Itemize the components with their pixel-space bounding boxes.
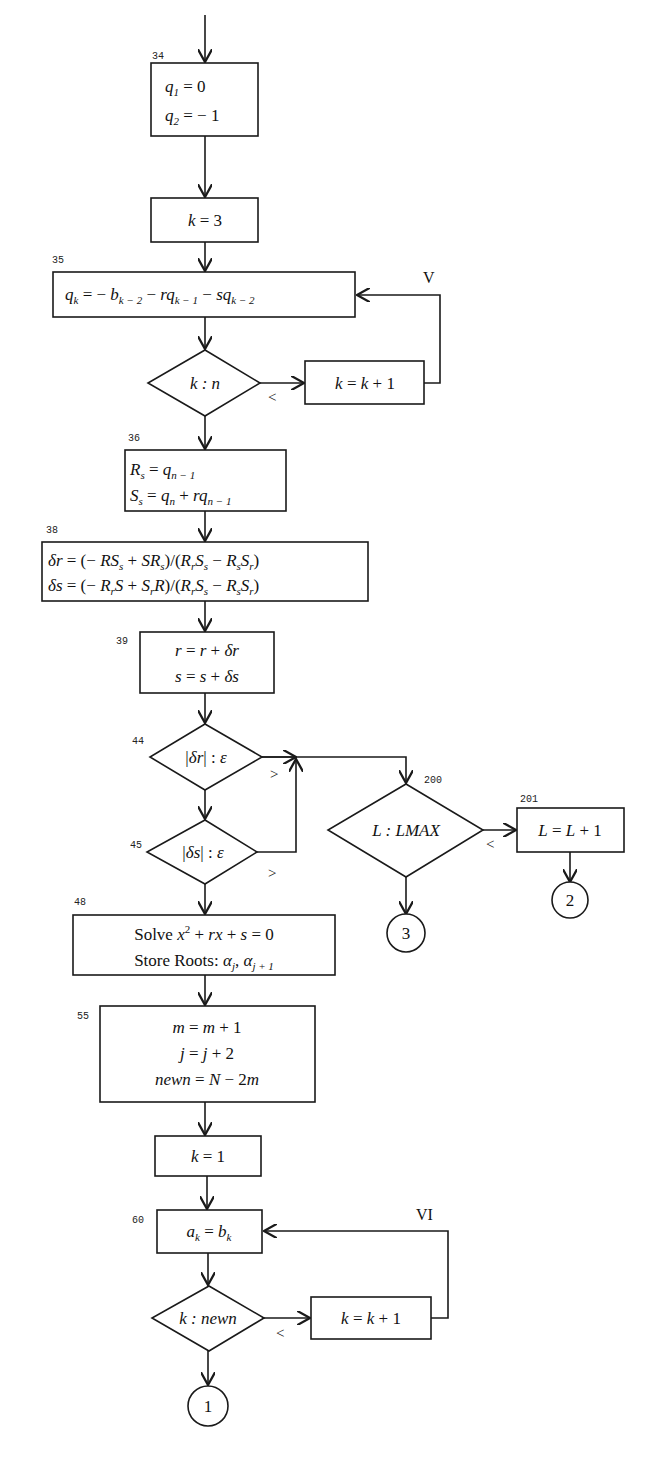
connector-2-label: 2 [566,891,575,910]
increment-k-2-text: k = k + 1 [341,1309,401,1328]
branch-label-gt-45: > [268,865,276,881]
box38-line1: δr = (− RSs + SRs)/(RrSs − RsSr) [48,551,259,572]
decision-45-text: |δs| : ε [182,843,224,862]
decision-k-n-text: k : n [190,374,220,393]
step-number-38: 38 [46,525,58,536]
loop-label-V: V [423,269,435,286]
step-number-200: 200 [424,775,442,786]
step-number-44: 44 [132,736,144,747]
process-box-34 [151,63,258,136]
loop-label-VI: VI [416,1206,433,1223]
step-number-45: 45 [130,840,142,851]
box55-line2: j = j + 2 [178,1044,234,1063]
box-k3-text: k = 3 [188,211,222,230]
box201-text: L = L + 1 [537,821,602,840]
step-number-39: 39 [116,636,128,647]
connector-3-label: 3 [402,924,411,943]
connector-1-label: 1 [204,1397,213,1416]
decision-44-text: |δr| : ε [185,748,227,767]
step-number-201: 201 [520,794,538,805]
step-number-34: 34 [152,51,164,62]
box55-line1: m = m + 1 [172,1018,241,1037]
box55-line3: newn = N − 2m [155,1070,259,1089]
step-number-55: 55 [77,1011,89,1022]
box34-line1: q1 = 0 [165,77,206,98]
box35-text: qk = − bk − 2 − rqk − 1 − sqk − 2 [65,285,255,306]
branch-label-lt: < [268,389,276,405]
step-number-35: 35 [52,255,64,266]
arrow-to-200 [262,757,406,783]
flowchart: 34 q1 = 0 q2 = − 1 k = 3 35 qk = − bk − … [0,0,665,1482]
box60-text: ak = bk [187,1222,233,1243]
box-k1-text: k = 1 [191,1147,225,1166]
step-number-60: 60 [132,1215,144,1226]
decision-200-text: L : LMAX [371,821,440,840]
branch-label-lt-newn: < [276,1325,284,1341]
step-number-36: 36 [128,433,140,444]
step-number-48: 48 [74,897,86,908]
box39-line2: s = s + δs [175,667,239,686]
decision-k-newn-text: k : newn [179,1309,237,1328]
box48-line1: Solve x2 + rx + s = 0 [134,923,274,944]
branch-label-lt-200: < [486,836,494,852]
box38-line2: δs = (− RrS + SrR)/(RrSs − RsSr) [48,576,259,597]
increment-k-text: k = k + 1 [335,374,395,393]
box39-line1: r = r + δr [175,641,239,660]
branch-label-gt-44: > [270,766,278,782]
box34-line2: q2 = − 1 [165,106,219,127]
